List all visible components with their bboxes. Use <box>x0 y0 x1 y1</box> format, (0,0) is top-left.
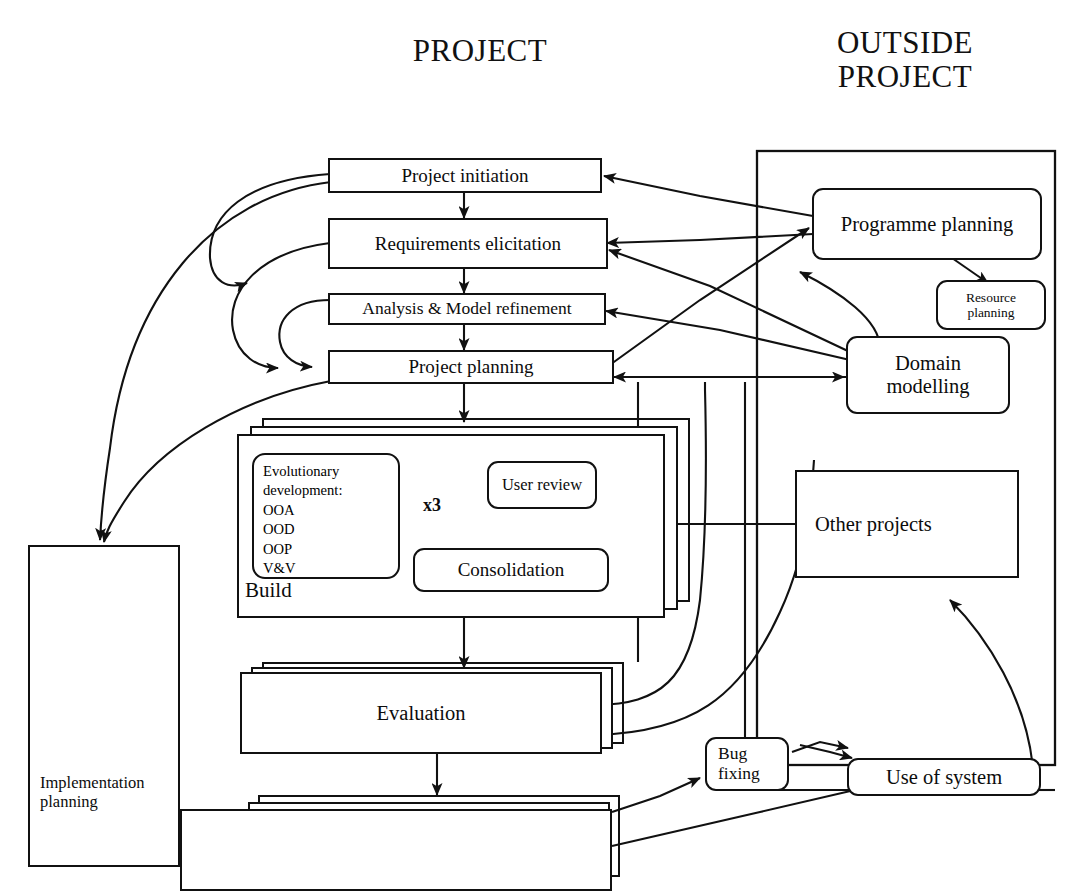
node-label: Domain modelling <box>848 352 1008 398</box>
node-domain-modelling[interactable]: Domain modelling <box>846 336 1010 414</box>
node-label: Requirements elicitation <box>371 233 565 254</box>
node-label: Other projects <box>811 513 936 536</box>
node-use-of-system[interactable]: Use of system <box>847 758 1041 796</box>
node-label: Analysis & Model refinement <box>358 299 575 319</box>
node-implementation-planning[interactable]: Implementation planning <box>28 545 180 867</box>
bottom-stack-container[interactable] <box>180 809 612 891</box>
node-user-review[interactable]: User review <box>487 461 597 509</box>
node-label: Bug fixing <box>714 744 787 783</box>
diagram-canvas: PROJECT OUTSIDE PROJECT Project initiati… <box>0 0 1082 894</box>
node-label: Use of system <box>882 766 1006 789</box>
node-label: Programme planning <box>837 213 1018 236</box>
node-bug-fixing[interactable]: Bug fixing <box>705 737 789 791</box>
node-analysis-model-refinement[interactable]: Analysis & Model refinement <box>328 293 606 325</box>
build-label: Build <box>245 578 292 603</box>
node-consolidation[interactable]: Consolidation <box>413 548 609 592</box>
node-label: Project initiation <box>397 165 532 186</box>
node-project-initiation[interactable]: Project initiation <box>328 158 602 193</box>
node-other-projects[interactable]: Other projects <box>795 470 1019 578</box>
node-evaluation[interactable]: Evaluation <box>240 672 602 754</box>
header-outside-project: OUTSIDE PROJECT <box>760 26 1050 94</box>
iteration-count-label: x3 <box>423 495 441 516</box>
node-requirements-elicitation[interactable]: Requirements elicitation <box>328 218 608 269</box>
node-programme-planning[interactable]: Programme planning <box>812 188 1042 260</box>
node-label: Consolidation <box>454 559 569 580</box>
node-label: Evaluation <box>373 702 470 725</box>
node-label: Project planning <box>404 356 537 377</box>
node-evolutionary-development[interactable]: Evolutionary development: OOA OOD OOP V&… <box>252 453 400 579</box>
header-project: PROJECT <box>330 34 630 68</box>
node-label: Implementation planning <box>36 774 178 811</box>
node-project-planning[interactable]: Project planning <box>328 350 614 384</box>
node-label: Resource planning <box>938 290 1044 320</box>
node-resource-planning[interactable]: Resource planning <box>936 280 1046 330</box>
node-label: User review <box>498 476 586 494</box>
